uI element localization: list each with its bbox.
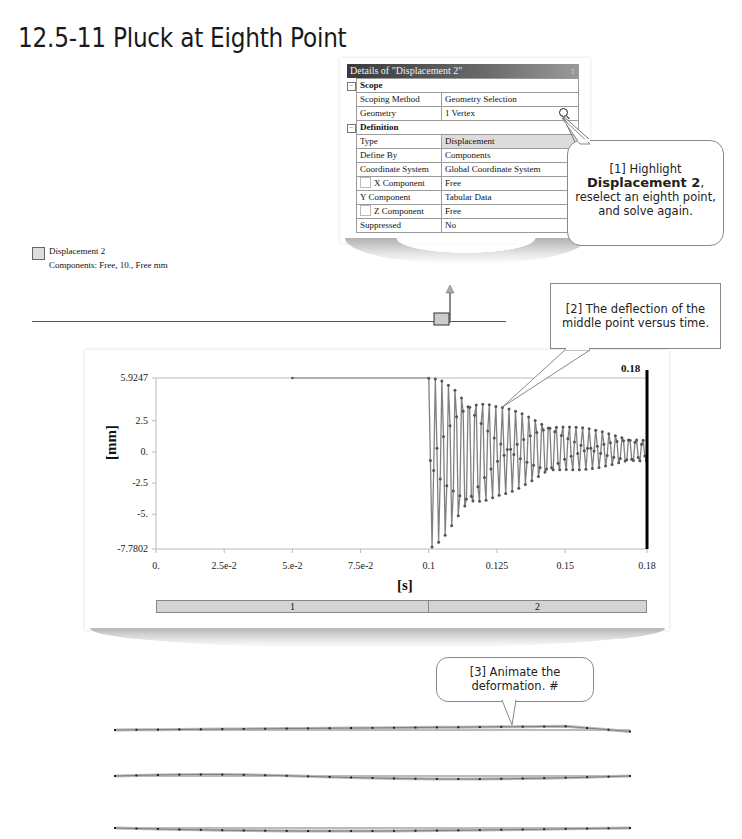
legend-detail: Components: Free, 10., Free mm xyxy=(49,260,168,270)
svg-text:0.18: 0.18 xyxy=(638,560,656,571)
property-value[interactable]: Free xyxy=(442,177,579,191)
category-label: Scope xyxy=(357,79,579,93)
svg-text:-2.5: -2.5 xyxy=(132,477,148,488)
callout-3: [3] Animate the deformation. # xyxy=(436,657,594,702)
details-panel-title-text: Details of "Displacement 2" xyxy=(350,65,462,76)
property-label: Scoping Method xyxy=(357,93,442,107)
svg-text:0.15: 0.15 xyxy=(556,560,574,571)
step-bar-1[interactable]: 1 xyxy=(156,600,429,613)
collapse-icon[interactable]: − xyxy=(347,124,356,133)
callout-1-line4: and solve again. xyxy=(598,204,693,218)
property-value: 1 Vertex xyxy=(445,108,475,118)
property-value[interactable]: Free xyxy=(442,205,579,219)
property-label: Suppressed xyxy=(357,219,442,233)
callout-1-comma: , xyxy=(700,176,704,190)
callout-3-line1: [3] Animate the xyxy=(470,665,561,679)
svg-text:-5.: -5. xyxy=(137,508,148,519)
svg-text:0.: 0. xyxy=(152,560,160,571)
svg-text:0.125: 0.125 xyxy=(486,560,509,571)
property-value[interactable]: Tabular Data xyxy=(442,191,579,205)
chart-shadow xyxy=(90,628,665,648)
parameter-checkbox[interactable] xyxy=(360,177,371,188)
svg-text:7.5e-2: 7.5e-2 xyxy=(348,560,373,571)
legend-swatch xyxy=(32,247,45,260)
property-label: Coordinate System xyxy=(357,163,442,177)
property-label: Type xyxy=(357,135,442,149)
category-scope[interactable]: − Scope xyxy=(347,79,579,93)
legend-name: Displacement 2 xyxy=(49,246,105,256)
property-row[interactable]: Y Component Tabular Data xyxy=(347,191,579,205)
callout-1-line1: [1] Highlight xyxy=(610,162,682,176)
step-bar-2-label: 2 xyxy=(535,601,540,612)
property-row[interactable]: Z Component Free xyxy=(347,205,579,219)
y-axis-label: [mm] xyxy=(103,425,120,460)
property-row[interactable]: X Component Free xyxy=(347,177,579,191)
current-time-label: 0.18 xyxy=(621,362,640,374)
property-value[interactable]: No xyxy=(442,219,579,233)
details-panel-title: Details of "Displacement 2" ↕ xyxy=(347,64,579,78)
callout-1-bold: Displacement 2 xyxy=(587,175,700,190)
parameter-checkbox[interactable] xyxy=(360,205,371,216)
deformation-animation[interactable] xyxy=(110,718,640,839)
property-label: Y Component xyxy=(357,191,442,205)
svg-text:2.5: 2.5 xyxy=(136,415,149,426)
page-title: 12.5-11 Pluck at Eighth Point xyxy=(18,22,346,53)
property-label: Define By xyxy=(357,149,442,163)
collapse-icon[interactable]: − xyxy=(347,82,356,91)
svg-text:0.1: 0.1 xyxy=(423,560,436,571)
panel-shadow xyxy=(345,238,587,264)
callout-1-tail xyxy=(560,118,600,158)
svg-text:2.5e-2: 2.5e-2 xyxy=(212,560,237,571)
callout-3-line2: deformation. # xyxy=(471,679,558,693)
step-bar-1-label: 1 xyxy=(290,601,295,612)
svg-text:-7.7802: -7.7802 xyxy=(117,543,148,554)
property-label: Z Component xyxy=(374,206,424,216)
pin-icon[interactable]: ↕ xyxy=(571,64,576,78)
property-label: X Component xyxy=(374,178,425,188)
deflection-chart[interactable]: 5.92472.50.-2.5-5.-7.78020.2.5e-25.e-27.… xyxy=(85,283,742,623)
svg-text:0.: 0. xyxy=(141,446,149,457)
callout-1-line3: reselect an eighth point, xyxy=(575,190,716,204)
svg-text:5.e-2: 5.e-2 xyxy=(282,560,302,571)
x-axis-label: [s] xyxy=(397,577,413,594)
svg-text:5.9247: 5.9247 xyxy=(121,372,149,383)
property-row[interactable]: Suppressed No xyxy=(347,219,579,233)
property-label: Geometry xyxy=(357,107,442,121)
step-bar-2[interactable]: 2 xyxy=(428,600,647,613)
